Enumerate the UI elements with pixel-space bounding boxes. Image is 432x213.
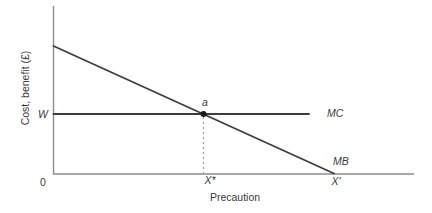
precaution-cost-benefit-chart: Cost, benefit (£) Precaution 0 W a MC MB… [0, 0, 432, 213]
x-axis-title: Precaution [210, 191, 260, 203]
y-axis-title: Cost, benefit (£) [19, 51, 31, 126]
economics-figure: Cost, benefit (£) Precaution 0 W a MC MB… [0, 0, 432, 213]
mb-curve-label: MB [333, 155, 349, 167]
point-a-label: a [202, 96, 208, 108]
x-prime-tick-label: X' [330, 175, 341, 187]
intersection-dot [201, 111, 207, 117]
mc-curve-label: MC [327, 107, 344, 119]
w-level-label: W [38, 108, 49, 120]
mb-line [54, 46, 335, 174]
origin-label: 0 [40, 176, 46, 188]
x-star-tick-label: X* [203, 174, 216, 186]
